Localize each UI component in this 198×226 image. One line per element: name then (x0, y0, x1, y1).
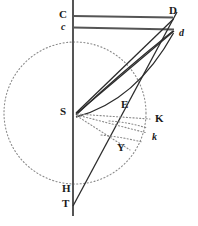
point-label-C: C (59, 9, 67, 20)
geometric-diagram: C c D d S E K k Y H T (0, 0, 198, 226)
point-label-Y: Y (117, 142, 125, 153)
segment-CD (73, 16, 173, 18)
point-label-T: T (62, 198, 69, 209)
point-label-S: S (60, 106, 66, 117)
ray-S-to-K (77, 114, 150, 119)
point-label-d: d (179, 27, 184, 38)
segment-cd (73, 28, 174, 30)
point-label-E: E (121, 99, 128, 110)
diagram-canvas (0, 0, 198, 226)
point-label-H: H (62, 183, 71, 194)
point-label-D: D (169, 5, 177, 16)
point-label-k: k (152, 131, 157, 142)
dotted-circle (4, 42, 146, 184)
point-label-K: K (155, 113, 164, 124)
point-label-c: c (61, 21, 65, 32)
